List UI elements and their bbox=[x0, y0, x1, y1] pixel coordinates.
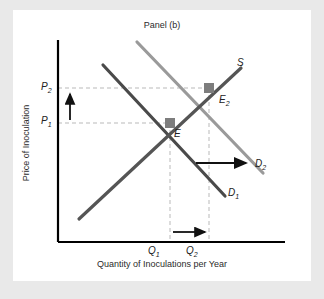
axis-tick-p2: P2 bbox=[41, 81, 52, 94]
chart-canvas bbox=[13, 10, 311, 281]
curve-label-d2: D2 bbox=[255, 158, 266, 171]
axis-tick-p1: P1 bbox=[41, 115, 52, 128]
x-axis-label: Quantity of Inoculations per Year bbox=[13, 259, 311, 269]
axis-tick-q1: Q1 bbox=[148, 245, 160, 258]
equilibrium-label-e2: E2 bbox=[219, 94, 230, 107]
curve-label-s: S bbox=[237, 57, 244, 68]
curve-s bbox=[79, 68, 241, 219]
figure-panel: Panel (b) bbox=[13, 10, 311, 281]
equilibrium-label-e: E bbox=[174, 128, 181, 139]
equilibrium-marker-e bbox=[165, 118, 175, 128]
curve-label-d1: D1 bbox=[228, 187, 239, 200]
axis-tick-q2: Q2 bbox=[186, 245, 198, 258]
y-axis-label: Price of Inoculation bbox=[21, 78, 31, 208]
equilibrium-marker-e2 bbox=[204, 83, 214, 93]
